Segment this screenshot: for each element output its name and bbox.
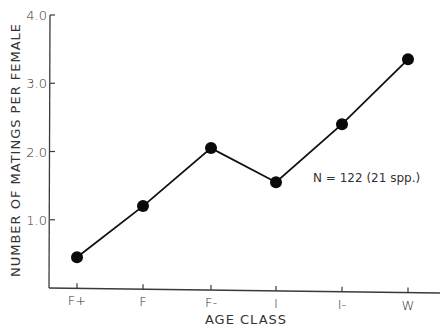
data-point-marker [270, 176, 282, 188]
sample-size-annotation: N = 122 (21 spp.) [313, 171, 420, 185]
x-tick-label: F [139, 294, 146, 309]
x-tick-label: I- [338, 297, 347, 312]
y-ticks: 1.02.03.04.0 [26, 8, 55, 228]
y-axis-title: NUMBER OF MATINGS PER FEMALE [8, 23, 23, 277]
y-tick-label: 4.0 [26, 8, 47, 23]
data-point-marker [71, 251, 83, 263]
data-point-marker [137, 200, 149, 212]
y-axis-line [49, 15, 50, 288]
x-tick-label: F- [205, 295, 217, 310]
data-point-marker [336, 118, 348, 130]
data-point-marker [402, 53, 414, 65]
x-ticks: F+FF-II-W [68, 283, 415, 312]
x-tick-label: F+ [68, 293, 86, 308]
line-chart: 1.02.03.04.0 F+FF-II-W NUMBER OF MATINGS… [0, 0, 443, 332]
x-axis-title: AGE CLASS [205, 312, 287, 327]
data-point-marker [205, 142, 217, 154]
series-line [77, 59, 408, 257]
data-markers [71, 53, 414, 263]
x-tick-label: W [402, 298, 415, 313]
y-tick-label: 3.0 [26, 76, 47, 91]
x-tick-label: I [274, 296, 278, 311]
x-axis-line [49, 288, 440, 293]
y-tick-label: 2.0 [26, 145, 47, 160]
data-series [71, 53, 414, 263]
y-tick-label: 1.0 [26, 213, 47, 228]
